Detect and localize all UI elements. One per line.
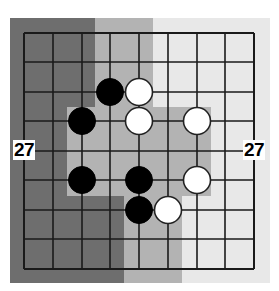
board-grid bbox=[0, 0, 279, 291]
white-stone bbox=[184, 108, 211, 135]
white-stone bbox=[126, 79, 153, 106]
white-stone bbox=[184, 167, 211, 194]
black-stone bbox=[97, 79, 124, 106]
black-stone bbox=[126, 197, 153, 224]
move-number-label-left: 27 bbox=[13, 140, 35, 160]
black-stone bbox=[126, 167, 153, 194]
white-stone bbox=[126, 108, 153, 135]
black-stone bbox=[69, 167, 96, 194]
black-stone bbox=[69, 108, 96, 135]
move-number-label-right: 27 bbox=[243, 140, 265, 160]
white-stone bbox=[155, 197, 182, 224]
go-diagram: 27 27 bbox=[0, 0, 279, 291]
